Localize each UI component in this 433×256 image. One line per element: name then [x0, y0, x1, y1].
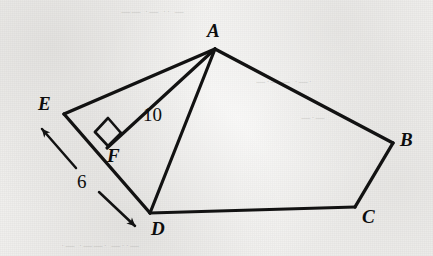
pentagon-outline [64, 49, 393, 213]
vertex-label-E: E [38, 94, 51, 113]
dimension-arrow-lower-half [99, 192, 135, 226]
segment-CD [150, 207, 355, 213]
vertex-label-A: A [207, 21, 220, 40]
segment-AB [215, 49, 393, 143]
vertex-label-D: D [151, 219, 165, 238]
geometry-figure: — ·· —· —— ·—· ——·— —·— —··— ·——· —· [0, 0, 433, 256]
vertex-label-C: C [362, 207, 375, 226]
dimension-arrow-upper-half [42, 129, 76, 168]
segment-AF-altitude [107, 49, 215, 148]
vertex-label-B: B [400, 130, 413, 149]
vertex-label-F: F [107, 146, 120, 165]
segment-BC [355, 143, 393, 207]
length-label-AF: 10 [143, 105, 162, 124]
length-label-ED: 6 [77, 172, 87, 191]
